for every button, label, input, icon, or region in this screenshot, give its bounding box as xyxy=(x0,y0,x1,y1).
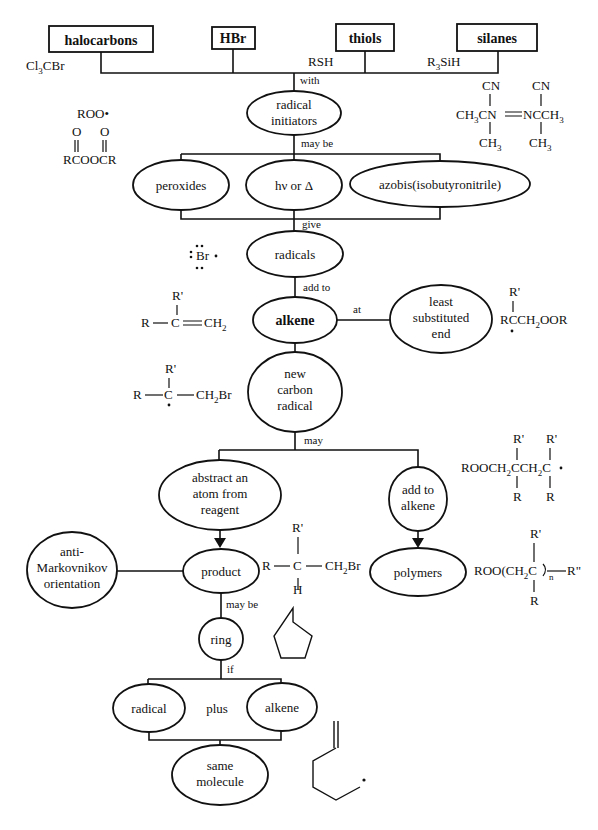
structure-adduct-radical: R' RCCH2OOR xyxy=(500,284,568,332)
reagent-example-r3sih: R3SiH xyxy=(427,54,460,72)
structure-alkene: R' R C CH2 xyxy=(141,288,227,333)
link-give: give xyxy=(302,218,321,230)
link-with: with xyxy=(300,74,320,86)
svg-text:same: same xyxy=(207,758,234,773)
svg-text:polymers: polymers xyxy=(394,565,442,580)
structure-diacyl-peroxide: O O RCOOCR xyxy=(63,124,117,167)
svg-text:CH2Br: CH2Br xyxy=(325,558,361,576)
reagent-label: HBr xyxy=(220,31,246,46)
node-ring: ring xyxy=(199,618,243,660)
node-product: product xyxy=(183,549,259,593)
svg-text:hν or Δ: hν or Δ xyxy=(275,178,313,193)
svg-text:substituted: substituted xyxy=(413,310,470,325)
svg-text:R: R xyxy=(133,387,142,402)
node-add-to-alkene: add to alkene xyxy=(389,467,447,531)
node-new-carbon-radical: new carbon radical xyxy=(248,352,342,432)
svg-text:atom from: atom from xyxy=(193,486,248,501)
svg-text:ROOCH2CCH2C: ROOCH2CCH2C xyxy=(461,460,551,478)
svg-text:azobis(isobutyronitrile): azobis(isobutyronitrile) xyxy=(379,177,501,192)
svg-text:R': R' xyxy=(546,431,557,446)
svg-text:abstract an: abstract an xyxy=(192,470,248,485)
reagent-thiols: thiols xyxy=(336,24,394,51)
structure-dimer-radical: R' R' ROOCH2CCH2C R R xyxy=(461,431,562,504)
svg-text:C: C xyxy=(164,387,173,402)
svg-text:product: product xyxy=(201,564,241,579)
svg-text:RCOOCR: RCOOCR xyxy=(63,152,117,167)
svg-text:new: new xyxy=(284,366,306,381)
link-at: at xyxy=(353,303,361,315)
node-azobis: azobis(isobutyronitrile) xyxy=(350,161,530,207)
node-radical: radical xyxy=(113,684,185,732)
link-plus: plus xyxy=(206,701,228,716)
svg-text:end: end xyxy=(432,326,451,341)
svg-text:ROO(CH2C: ROO(CH2C xyxy=(474,563,537,581)
node-abstract-atom: abstract an atom from reagent xyxy=(159,460,281,530)
svg-text:CN: CN xyxy=(532,78,551,93)
reagent-example-rsh: RSH xyxy=(308,54,333,69)
svg-text:radical: radical xyxy=(131,701,167,716)
structure-bromo-radical: R' R C CH2Br xyxy=(133,361,232,406)
svg-text:R: R xyxy=(513,489,522,504)
svg-text:alkene: alkene xyxy=(265,700,299,715)
node-least-substituted-end: least substituted end xyxy=(390,285,492,353)
svg-text:R': R' xyxy=(509,284,520,299)
svg-text:R': R' xyxy=(172,288,183,303)
svg-text:H: H xyxy=(293,582,302,597)
svg-text:R: R xyxy=(530,593,539,608)
link-add-to: add to xyxy=(303,281,331,293)
node-peroxides: peroxides xyxy=(133,160,229,210)
svg-text:CH3: CH3 xyxy=(479,135,502,153)
svg-text:R': R' xyxy=(292,520,303,535)
svg-text:CH2Br: CH2Br xyxy=(196,387,232,405)
svg-text:ring: ring xyxy=(211,632,232,647)
svg-text:least: least xyxy=(429,294,453,309)
svg-text:R': R' xyxy=(530,526,541,541)
svg-text:radical: radical xyxy=(276,97,312,112)
svg-text:R: R xyxy=(262,558,271,573)
node-polymers: polymers xyxy=(370,548,466,596)
svg-text:radical: radical xyxy=(277,398,313,413)
link-may-be: may be xyxy=(301,137,333,149)
node-alkene: alkene xyxy=(253,297,337,343)
link-if: if xyxy=(227,663,234,675)
svg-text:alkene: alkene xyxy=(401,498,435,513)
svg-text:O: O xyxy=(100,124,109,139)
svg-text:Markovnikov: Markovnikov xyxy=(37,560,108,575)
node-radicals: radicals xyxy=(247,231,343,277)
svg-text:orientation: orientation xyxy=(44,576,101,591)
svg-text:R: R xyxy=(546,489,555,504)
svg-text:CH3CN: CH3CN xyxy=(456,107,497,125)
link-may: may xyxy=(304,434,323,446)
concept-map: halocarbons Cl3CBr HBr thiols RSH silane… xyxy=(0,0,598,830)
svg-text:reagent: reagent xyxy=(201,502,240,517)
svg-text:carbon: carbon xyxy=(277,382,313,397)
node-same-molecule: same molecule xyxy=(172,745,268,805)
structure-br-radical: Br xyxy=(190,245,218,270)
svg-text:R': R' xyxy=(513,431,524,446)
reagent-example-cl3cbr: Cl3CBr xyxy=(26,58,65,76)
arrow-down-icon xyxy=(214,538,226,548)
svg-text:Br: Br xyxy=(196,248,210,263)
structure-hexenyl-radical xyxy=(313,721,366,800)
reagent-label: thiols xyxy=(349,31,382,46)
svg-text:initiators: initiators xyxy=(271,113,317,128)
svg-text:NCCH3: NCCH3 xyxy=(523,107,564,125)
svg-text:C: C xyxy=(293,558,302,573)
structure-polymer: R' ROO(CH2C n R" R xyxy=(474,526,581,608)
reagent-hbr: HBr xyxy=(212,27,255,49)
structure-roo-radical: ROO• xyxy=(77,106,109,121)
svg-text:molecule: molecule xyxy=(196,774,244,789)
svg-text:alkene: alkene xyxy=(276,313,315,328)
svg-text:O: O xyxy=(72,124,81,139)
svg-text:R": R" xyxy=(567,563,581,578)
svg-text:n: n xyxy=(549,572,554,582)
reagent-label: halocarbons xyxy=(64,33,138,48)
node-hv-or-delta: hν or Δ xyxy=(246,160,342,210)
svg-text:R: R xyxy=(141,315,150,330)
arrow-down-icon xyxy=(412,538,424,548)
svg-text:CN: CN xyxy=(482,78,501,93)
node-anti-markovnikov: anti- Markovnikov orientation xyxy=(27,532,117,608)
svg-text:C: C xyxy=(171,315,180,330)
reagent-label: silanes xyxy=(477,31,517,46)
svg-text:CH2: CH2 xyxy=(204,315,227,333)
